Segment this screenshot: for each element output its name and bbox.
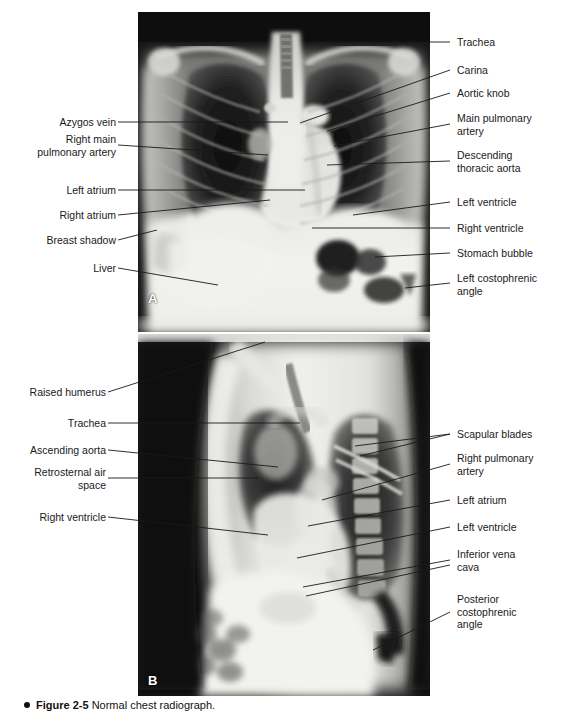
label-main-pulmonary-artery: Main pulmonary artery xyxy=(457,112,561,137)
label-trachea-b: Trachea xyxy=(0,417,106,430)
label-stomach-bubble: Stomach bubble xyxy=(457,247,561,260)
label-right-atrium: Right atrium xyxy=(8,209,116,222)
label-breast-shadow: Breast shadow xyxy=(8,234,116,247)
label-raised-humerus: Raised humerus xyxy=(0,386,106,399)
label-ascending-aorta: Ascending aorta xyxy=(0,444,106,457)
label-left-atrium-a: Left atrium xyxy=(8,184,116,197)
label-posterior-costophrenic-angle: Posterior costophrenic angle xyxy=(457,593,561,631)
panel-b-image xyxy=(138,334,430,696)
label-retrosternal-air-space: Retrosternal air space xyxy=(0,466,106,491)
caption-body: Normal chest radiograph. xyxy=(92,699,216,711)
caption-bullet-icon xyxy=(24,702,30,708)
label-left-ventricle-a: Left ventricle xyxy=(457,196,561,209)
label-liver: Liver xyxy=(8,262,116,275)
caption-figure-number: Figure 2-5 xyxy=(36,699,89,711)
label-aortic-knob: Aortic knob xyxy=(457,87,561,100)
chest-radiograph-panel-b: B xyxy=(138,334,430,696)
panel-a-image xyxy=(138,12,430,332)
label-left-costophrenic-angle: Left costophrenic angle xyxy=(457,272,561,297)
panel-b-letter: B xyxy=(148,673,157,688)
label-right-pulmonary-artery: Right pulmonary artery xyxy=(457,452,561,477)
chest-radiograph-panel-a: A xyxy=(138,12,430,332)
figure-page: A xyxy=(0,0,563,712)
label-descending-thoracic-aorta: Descending thoracic aorta xyxy=(457,149,561,174)
label-scapular-blades: Scapular blades xyxy=(457,428,561,441)
label-inferior-vena-cava: Inferior vena cava xyxy=(457,548,561,573)
label-right-ventricle-b: Right ventricle xyxy=(0,511,106,524)
label-carina: Carina xyxy=(457,64,561,77)
label-left-ventricle-b: Left ventricle xyxy=(457,521,561,534)
figure-caption: Figure 2-5 Normal chest radiograph. xyxy=(24,699,544,712)
label-right-main-pulmonary-artery: Right main pulmonary artery xyxy=(8,133,116,158)
label-right-ventricle-a: Right ventricle xyxy=(457,222,561,235)
label-left-atrium-b: Left atrium xyxy=(457,494,561,507)
label-azygos-vein: Azygos vein xyxy=(8,116,116,129)
panel-a-letter: A xyxy=(148,291,157,306)
label-trachea-a: Trachea xyxy=(457,36,561,49)
